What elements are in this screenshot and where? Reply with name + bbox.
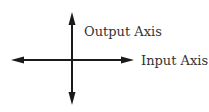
down-arrowhead-icon [69,92,76,105]
vertical-axis [69,12,76,105]
up-arrowhead-icon [69,12,76,25]
right-arrowhead-icon [121,57,134,64]
input-axis-label: Input Axis [141,53,208,68]
output-axis-label: Output Axis [84,24,162,39]
left-arrowhead-icon [11,57,24,64]
